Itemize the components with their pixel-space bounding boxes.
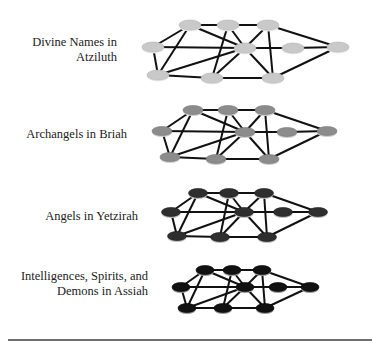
edge-TR-BR [268, 25, 273, 78]
node-disc-TL [183, 106, 203, 117]
label-line: Demons in Assiah [21, 284, 148, 299]
label-line: Archangels in Briah [26, 127, 127, 142]
edge-TR-BR [264, 193, 267, 237]
label-line: Atziluth [32, 50, 117, 65]
node-disc-BR [258, 233, 277, 244]
layer-yetzirah-network [162, 189, 328, 244]
edge-ML-C [162, 131, 245, 132]
node-disc-BL [160, 153, 180, 164]
node-disc-ML [162, 208, 181, 219]
node-disc-TL [189, 189, 208, 200]
node-disc-MR [269, 283, 287, 294]
edge-BL-C [158, 48, 245, 75]
layer-label-atziluth: Divine Names inAtziluth [32, 35, 117, 65]
node-disc-TR [253, 266, 271, 277]
node-disc-FR [301, 283, 319, 294]
node-disc-MR [282, 43, 304, 55]
node-disc-TL [179, 20, 201, 32]
layer-briah-network [152, 106, 337, 166]
node-disc-BM [201, 73, 223, 85]
layer-label-briah: Archangels in Briah [26, 127, 127, 142]
label-line: Intelligences, Spirits, and [21, 269, 148, 284]
node-disc-TM [223, 266, 241, 277]
node-disc-BR [256, 304, 274, 315]
node-disc-MR [274, 208, 293, 219]
node-disc-BM [214, 304, 232, 315]
label-line: Divine Names in [32, 35, 117, 50]
node-disc-BL [147, 70, 169, 82]
node-disc-C [234, 43, 256, 55]
node-disc-TR [257, 20, 279, 32]
horizontal-rule [8, 339, 372, 341]
node-disc-BL [178, 304, 196, 315]
node-disc-ML [172, 283, 190, 294]
layer-assiah-network [172, 266, 319, 315]
node-disc-BM [211, 233, 230, 244]
layer-label-yetzirah: Angels in Yetzirah [45, 209, 138, 224]
edge-ML-C [153, 47, 245, 48]
node-disc-FR [327, 42, 349, 54]
edge-BR-FR [269, 131, 327, 159]
node-disc-C [235, 208, 254, 219]
layer-atziluth-network [142, 20, 349, 85]
node-disc-TL [196, 266, 214, 277]
edge-TM-BM [216, 110, 228, 159]
node-disc-FR [309, 208, 328, 219]
node-disc-ML [152, 127, 172, 138]
node-disc-BM [206, 155, 226, 166]
node-disc-MR [277, 128, 297, 139]
node-disc-TM [220, 189, 239, 200]
node-disc-BL [168, 232, 187, 243]
label-line: Angels in Yetzirah [45, 209, 138, 224]
edge-TR-FR [268, 25, 338, 47]
node-disc-TR [255, 189, 274, 200]
node-disc-FR [317, 127, 337, 138]
node-disc-TM [218, 106, 238, 117]
node-disc-C [236, 283, 254, 294]
node-disc-BR [259, 155, 279, 166]
node-disc-ML [142, 42, 164, 54]
node-disc-TM [217, 20, 239, 32]
node-disc-BR [262, 73, 284, 85]
edge-BR-FR [273, 47, 338, 78]
edge-TR-BR [265, 110, 269, 159]
node-disc-C [235, 128, 255, 139]
node-disc-TR [255, 106, 275, 117]
layer-label-assiah: Intelligences, Spirits, andDemons in Ass… [21, 269, 148, 299]
